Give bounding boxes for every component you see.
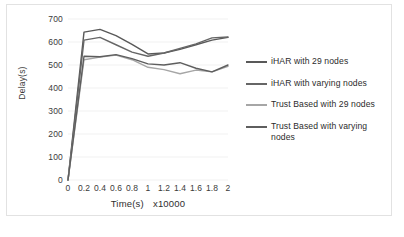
plot-area xyxy=(68,19,228,180)
y-axis-title: Delay(s) xyxy=(17,53,27,113)
legend-color-swatch xyxy=(246,126,267,128)
legend-item[interactable]: iHAR with varying nodes xyxy=(246,78,388,90)
legend-item[interactable]: Trust Based with 29 nodes xyxy=(246,99,388,111)
series-lines xyxy=(68,19,228,180)
x-axis-unit: x10000 xyxy=(153,198,185,209)
x-axis-tick-label: 0.2 xyxy=(78,183,90,193)
x-axis-tick-label: 0.4 xyxy=(94,183,106,193)
series-line xyxy=(68,55,228,180)
x-axis-tick-label: 0.6 xyxy=(110,183,122,193)
legend-item[interactable]: iHAR with 29 nodes xyxy=(246,56,388,68)
x-axis-tick-label: 2 xyxy=(226,183,231,193)
x-axis-tick-label: 1.6 xyxy=(190,183,202,193)
x-axis-tick-label: 1.4 xyxy=(174,183,186,193)
x-axis-title-text: Time(s) xyxy=(111,198,144,209)
series-line xyxy=(68,55,228,180)
series-line xyxy=(68,29,228,180)
x-axis-title: Time(s)x10000 xyxy=(68,198,228,209)
legend-item[interactable]: Trust Based with varying nodes xyxy=(246,121,388,144)
x-axis-tick-label: 1.2 xyxy=(158,183,170,193)
x-axis-tick-label: 0.8 xyxy=(126,183,138,193)
chart-container: 0100200300400500600700 Delay(s) 00.20.40… xyxy=(0,0,404,237)
legend-color-swatch xyxy=(246,83,267,85)
legend-color-swatch xyxy=(246,61,267,63)
x-axis-tick-label: 0 xyxy=(66,183,71,193)
y-axis-tick-label: 400 xyxy=(30,84,63,93)
legend-label: Trust Based with varying nodes xyxy=(271,121,383,144)
x-axis-tick-label: 1.8 xyxy=(206,183,218,193)
legend-label: Trust Based with 29 nodes xyxy=(271,99,375,111)
chart-legend: iHAR with 29 nodesiHAR with varying node… xyxy=(246,56,388,154)
y-axis-tick-label: 600 xyxy=(30,38,63,47)
y-axis-tick-label: 500 xyxy=(30,61,63,70)
y-axis: 0100200300400500600700 xyxy=(30,0,63,237)
x-axis-tick-label: 1 xyxy=(146,183,151,193)
x-axis: 00.20.40.60.811.21.41.61.82 xyxy=(68,183,228,195)
y-axis-tick-label: 0 xyxy=(30,176,63,185)
legend-color-swatch xyxy=(246,104,267,106)
legend-label: iHAR with 29 nodes xyxy=(271,56,348,68)
legend-label: iHAR with varying nodes xyxy=(271,78,367,90)
y-axis-tick-label: 200 xyxy=(30,130,63,139)
y-axis-tick-label: 100 xyxy=(30,153,63,162)
y-axis-tick-label: 300 xyxy=(30,107,63,116)
y-axis-tick-label: 700 xyxy=(30,15,63,24)
